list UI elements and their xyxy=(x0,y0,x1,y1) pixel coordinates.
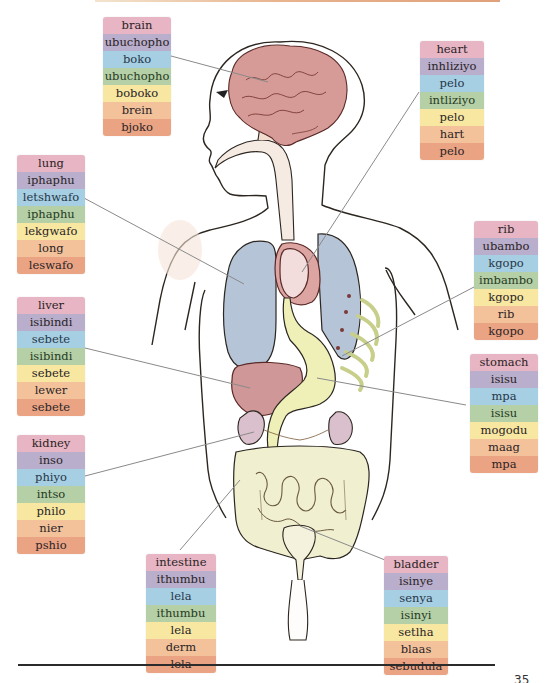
label-pedi: leswafo xyxy=(17,257,85,274)
lung-label-card: lung iphaphu letshwafo iphaphu lekgwafo … xyxy=(17,155,85,274)
label-tswana: pelo xyxy=(420,109,484,126)
label-afrikaans: nier xyxy=(17,520,85,537)
page-number: 35 xyxy=(514,673,529,683)
label-english: stomach xyxy=(470,354,538,371)
label-afrikaans: derm xyxy=(146,639,216,656)
label-zulu: ubuchopho xyxy=(103,34,171,51)
label-zulu: inso xyxy=(17,452,85,469)
label-sotho: mpa xyxy=(470,388,538,405)
label-english: heart xyxy=(420,41,484,58)
label-xhosa: isinyi xyxy=(384,607,448,624)
label-pedi: kgopo xyxy=(474,323,538,340)
label-xhosa: intso xyxy=(17,486,85,503)
label-tswana: setlha xyxy=(384,624,448,641)
label-xhosa: imbambo xyxy=(474,272,538,289)
label-zulu: ithumbu xyxy=(146,571,216,588)
label-english: liver xyxy=(17,297,85,314)
label-afrikaans: maag xyxy=(470,439,538,456)
label-english: intestine xyxy=(146,554,216,571)
label-afrikaans: hart xyxy=(420,126,484,143)
label-pedi: bjoko xyxy=(103,119,171,136)
label-zulu: iphaphu xyxy=(17,172,85,189)
bladder-label-card: bladder isinye senya isinyi setlha blaas… xyxy=(384,556,448,675)
label-sotho: boko xyxy=(103,51,171,68)
label-english: kidney xyxy=(17,435,85,452)
label-tswana: mogodu xyxy=(470,422,538,439)
eye xyxy=(216,90,228,98)
label-tswana: lekgwafo xyxy=(17,223,85,240)
intestine-label-card: intestine ithumbu lela ithumbu lela derm… xyxy=(146,554,216,673)
label-tswana: philo xyxy=(17,503,85,520)
label-zulu: inhliziyo xyxy=(420,58,484,75)
heart xyxy=(275,243,320,305)
label-pedi: sebudula xyxy=(384,658,448,675)
footer-rule xyxy=(18,664,495,666)
label-afrikaans: long xyxy=(17,240,85,257)
label-tswana: boboko xyxy=(103,85,171,102)
label-english: rib xyxy=(474,221,538,238)
brain xyxy=(229,45,347,145)
label-zulu: isinye xyxy=(384,573,448,590)
label-sotho: sebete xyxy=(17,331,85,348)
label-sotho: senya xyxy=(384,590,448,607)
label-afrikaans: lewer xyxy=(17,382,85,399)
label-tswana: sebete xyxy=(17,365,85,382)
label-xhosa: isibindi xyxy=(17,348,85,365)
label-english: bladder xyxy=(384,556,448,573)
label-afrikaans: rib xyxy=(474,306,538,323)
label-xhosa: iphaphu xyxy=(17,206,85,223)
label-zulu: isibindi xyxy=(17,314,85,331)
label-xhosa: isisu xyxy=(470,405,538,422)
stomach-label-card: stomach isisu mpa isisu mogodu maag mpa xyxy=(470,354,538,473)
label-sotho: lela xyxy=(146,588,216,605)
label-english: lung xyxy=(17,155,85,172)
label-xhosa: ithumbu xyxy=(146,605,216,622)
label-pedi: sebete xyxy=(17,399,85,416)
label-sotho: letshwafo xyxy=(17,189,85,206)
label-pedi: pelo xyxy=(420,143,484,160)
label-english: brain xyxy=(103,17,171,34)
label-tswana: lela xyxy=(146,622,216,639)
label-pedi: pshio xyxy=(17,537,85,554)
label-xhosa: intliziyo xyxy=(420,92,484,109)
kidney-label-card: kidney inso phiyo intso philo nier pshio xyxy=(17,435,85,554)
label-zulu: isisu xyxy=(470,371,538,388)
label-tswana: kgopo xyxy=(474,289,538,306)
label-afrikaans: brein xyxy=(103,102,171,119)
brain-label-card: brain ubuchopho boko ubuchopho boboko br… xyxy=(103,17,171,136)
label-afrikaans: blaas xyxy=(384,641,448,658)
label-sotho: pelo xyxy=(420,75,484,92)
heart-label-card: heart inhliziyo pelo intliziyo pelo hart… xyxy=(420,41,484,160)
label-sotho: phiyo xyxy=(17,469,85,486)
label-xhosa: ubuchopho xyxy=(103,68,171,85)
liver-label-card: liver isibindi sebete isibindi sebete le… xyxy=(17,297,85,416)
label-pedi: mpa xyxy=(470,456,538,473)
rib-label-card: rib ubambo kgopo imbambo kgopo rib kgopo xyxy=(474,221,538,340)
label-sotho: kgopo xyxy=(474,255,538,272)
label-zulu: ubambo xyxy=(474,238,538,255)
